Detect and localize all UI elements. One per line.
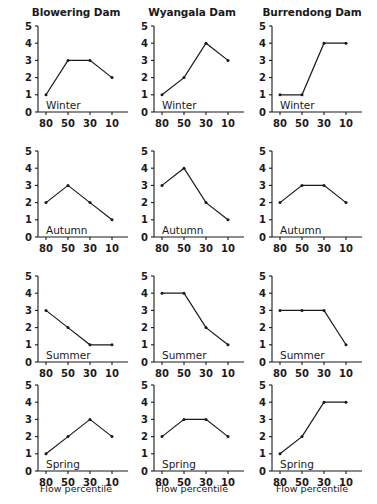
column-title-2: Burrendong Dam [250, 6, 374, 18]
panel-winter-wyangala-dam: 01234580503010Winter [132, 20, 250, 128]
y-tick-label: 2 [141, 197, 148, 208]
data-point-marker [89, 59, 92, 62]
x-tick-label: 80 [273, 368, 287, 379]
series-line [162, 419, 228, 436]
y-tick-label: 4 [141, 38, 148, 49]
series-line [162, 43, 228, 95]
y-tick-label: 3 [259, 180, 266, 191]
y-tick-label: 0 [141, 232, 148, 243]
y-tick-label: 2 [259, 322, 266, 333]
y-tick-label: 5 [25, 21, 32, 32]
y-tick-label: 4 [259, 163, 266, 174]
figure-panel-grid: Blowering Dam Wyangala Dam Burrendong Da… [0, 0, 377, 504]
season-label: Spring [162, 458, 196, 470]
y-tick-label: 1 [259, 448, 266, 459]
x-tick-label: 80 [39, 118, 53, 129]
data-point-marker [205, 326, 208, 329]
data-point-marker [301, 309, 304, 312]
column-title-0: Blowering Dam [16, 6, 136, 18]
season-label: Spring [280, 458, 314, 470]
y-tick-label: 5 [259, 21, 266, 32]
data-point-marker [67, 184, 70, 187]
y-tick-label: 5 [141, 146, 148, 157]
x-tick-label: 30 [199, 368, 213, 379]
y-tick-label: 3 [25, 414, 32, 425]
y-tick-label: 0 [259, 107, 266, 118]
data-point-marker [205, 42, 208, 45]
x-tick-label: 10 [105, 243, 119, 254]
y-tick-label: 1 [259, 339, 266, 350]
y-tick-label: 0 [141, 466, 148, 477]
data-point-marker [111, 343, 114, 346]
data-point-marker [183, 167, 186, 170]
data-point-marker [301, 184, 304, 187]
y-tick-label: 4 [25, 163, 32, 174]
series-line [162, 168, 228, 220]
data-point-marker [183, 292, 186, 295]
data-point-marker [45, 452, 48, 455]
x-tick-label: 80 [273, 118, 287, 129]
y-tick-label: 1 [25, 214, 32, 225]
x-tick-label: 10 [105, 118, 119, 129]
panel-autumn-wyangala-dam: 01234580503010Autumn [132, 145, 250, 253]
data-point-marker [161, 292, 164, 295]
y-tick-label: 2 [141, 431, 148, 442]
y-tick-label: 0 [25, 357, 32, 368]
data-point-marker [345, 401, 348, 404]
y-tick-label: 5 [259, 380, 266, 391]
y-tick-label: 3 [259, 55, 266, 66]
data-point-marker [227, 343, 230, 346]
data-point-marker [323, 184, 326, 187]
y-tick-label: 0 [25, 466, 32, 477]
y-tick-label: 5 [25, 271, 32, 282]
data-point-marker [279, 201, 282, 204]
data-point-marker [323, 42, 326, 45]
panel-spring-burrendong-dam: 01234580503010Spring [250, 379, 368, 487]
y-tick-label: 5 [25, 380, 32, 391]
y-tick-label: 0 [259, 357, 266, 368]
x-tick-label: 10 [221, 118, 235, 129]
season-label: Autumn [280, 224, 322, 236]
y-tick-label: 1 [25, 448, 32, 459]
y-tick-label: 0 [25, 232, 32, 243]
panel-winter-blowering-dam: 01234580503010Winter [16, 20, 134, 128]
panel-autumn-burrendong-dam: 01234580503010Autumn [250, 145, 368, 253]
data-point-marker [205, 201, 208, 204]
series-line [280, 185, 346, 202]
season-label: Summer [280, 349, 325, 361]
y-tick-label: 4 [141, 397, 148, 408]
y-tick-label: 1 [141, 448, 148, 459]
panel-summer-burrendong-dam: 01234580503010Summer [250, 270, 368, 378]
y-tick-label: 3 [141, 414, 148, 425]
season-label: Winter [46, 99, 81, 111]
series-line [162, 293, 228, 345]
x-tick-label: 50 [61, 118, 75, 129]
y-tick-label: 3 [259, 414, 266, 425]
data-point-marker [89, 201, 92, 204]
x-tick-label: 30 [83, 368, 97, 379]
panel-autumn-blowering-dam: 01234580503010Autumn [16, 145, 134, 253]
x-tick-label: 30 [317, 368, 331, 379]
data-point-marker [227, 218, 230, 221]
y-tick-label: 5 [141, 271, 148, 282]
panel-spring-wyangala-dam: 01234580503010Spring [132, 379, 250, 487]
y-tick-label: 0 [259, 232, 266, 243]
y-tick-label: 2 [259, 431, 266, 442]
season-label: Winter [162, 99, 197, 111]
y-tick-label: 4 [141, 288, 148, 299]
x-tick-label: 50 [177, 243, 191, 254]
y-tick-label: 1 [141, 339, 148, 350]
season-label: Autumn [162, 224, 204, 236]
data-point-marker [301, 93, 304, 96]
season-label: Winter [280, 99, 315, 111]
y-tick-label: 5 [141, 380, 148, 391]
data-point-marker [89, 343, 92, 346]
y-tick-label: 1 [25, 339, 32, 350]
x-tick-label: 10 [339, 368, 353, 379]
x-tick-label: 10 [339, 118, 353, 129]
x-tick-label: 50 [295, 368, 309, 379]
x-tick-label: 80 [155, 243, 169, 254]
x-tick-label: 30 [199, 243, 213, 254]
x-tick-label: 50 [177, 368, 191, 379]
y-tick-label: 4 [25, 288, 32, 299]
